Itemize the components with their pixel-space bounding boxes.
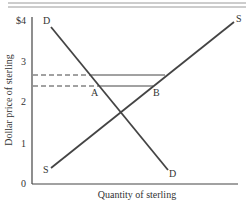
y-axis-label: Dollar price of sterling <box>3 54 14 145</box>
y-tick-0: 0 <box>21 178 26 189</box>
y-tick-2: 2 <box>21 96 26 107</box>
supply-label-bottom: S <box>43 164 49 175</box>
y-tick-1: 1 <box>21 138 26 149</box>
demand-label-top: D <box>43 15 50 26</box>
point-a-label: A <box>91 87 99 98</box>
y-tick-4: $4 <box>16 15 26 26</box>
supply-label-top: S <box>236 13 242 24</box>
demand-curve <box>51 27 168 170</box>
y-tick-3: 3 <box>21 56 26 67</box>
x-axis-label: Quantity of sterling <box>98 189 176 200</box>
point-b-label: B <box>153 87 160 98</box>
supply-curve <box>51 22 234 168</box>
supply-demand-chart: $4 3 2 1 0 Dollar price of sterling Quan… <box>0 0 249 203</box>
demand-label-bottom: D <box>169 168 176 179</box>
